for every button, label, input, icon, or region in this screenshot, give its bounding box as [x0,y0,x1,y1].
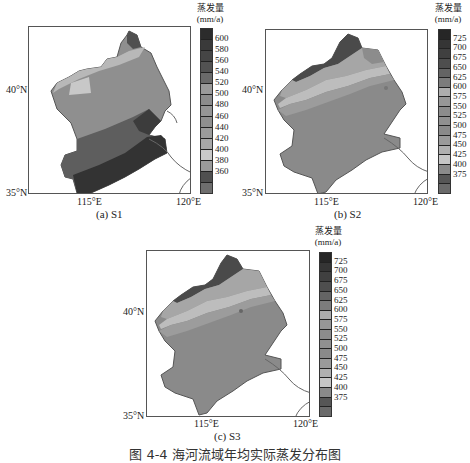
colorbar-tick-label: 450 [334,362,348,372]
colorbar-tick-label: 600 [215,33,229,43]
colorbar-ticks-s3: 7257006756506256005755505255004754504254… [334,252,351,417]
colorbar-segment [320,272,331,282]
colorbar-title-s2: 蒸发量 (mm/a) [428,3,468,25]
colorbar-tick-label: 400 [215,144,229,154]
colorbar-segment [201,161,212,172]
colorbar-segment [320,253,331,263]
colorbar-segment [320,340,331,350]
colorbar-tick-label: 600 [334,304,348,314]
colorbar-segment [439,126,450,136]
map-frame-s1 [28,26,191,194]
lat-label-35n: 35°N [123,410,144,421]
colorbar-segment [201,62,212,73]
colorbar-tick-label: 550 [453,101,467,111]
colorbar-tick-label: 575 [334,314,348,324]
colorbar-segment [201,172,212,183]
colorbar-segment [201,51,212,62]
colorbar-segment [201,73,212,84]
colorbar-tick-label: 525 [453,110,467,120]
panel-caption-s2: (b) S2 [334,208,361,220]
figure-caption: 图 4-4 海河流域年均实际蒸发分布图 [0,444,470,463]
lat-label-40n: 40°N [123,306,144,317]
colorbar-segment [320,407,331,416]
lat-label-40n: 40°N [6,84,27,95]
colorbar-tick-label: 675 [334,275,348,285]
colorbar-segment [320,292,331,302]
colorbar-segment [320,282,331,292]
colorbar-segment [439,175,450,185]
colorbar-segment [320,349,331,359]
colorbar-title-line2: (mm/a) [190,14,230,25]
colorbar-segment [439,40,450,50]
colorbar-tick-label: 625 [453,72,467,82]
colorbar-segment [201,40,212,51]
colorbar-tick-label: 475 [334,353,348,363]
colorbar-segment [320,320,331,330]
lat-label-40n: 40°N [242,84,263,95]
lon-label-120e: 120°E [293,418,318,429]
colorbar-tick-label: 500 [215,88,229,98]
colorbar-tick-label: 480 [215,99,229,109]
colorbar-segment [320,378,331,388]
colorbar-segment [320,398,331,408]
colorbar-s1 [200,28,213,194]
colorbar-tick-label: 460 [215,111,229,121]
colorbar-segment [201,183,212,193]
colorbar-tick-label: 580 [215,44,229,54]
colorbar-tick-label: 525 [334,333,348,343]
colorbar-segment [320,388,331,398]
colorbar-tick-label: 700 [334,265,348,275]
colorbar-tick-label: 575 [453,91,467,101]
colorbar-segment [439,155,450,165]
basin-map-s1 [29,27,191,194]
colorbar-tick-label: 420 [215,133,229,143]
lat-label-35n: 35°N [242,187,263,198]
colorbar-tick-label: 380 [215,155,229,165]
colorbar-tick-label: 500 [453,120,467,130]
basin-map-s3 [147,251,310,417]
colorbar-segment [201,139,212,150]
colorbar-s3 [319,252,332,417]
lon-label-120e: 120°E [176,196,201,207]
colorbar-segment [201,29,212,40]
colorbar-title-s3: 蒸发量 (mm/a) [308,226,348,248]
lon-label-115e: 115°E [77,196,102,207]
colorbar-tick-label: 360 [215,166,229,176]
lon-label-115e: 115°E [194,418,219,429]
colorbar-tick-label: 520 [215,77,229,87]
panel-caption-s1: (a) S1 [96,208,123,220]
colorbar-segment [439,146,450,156]
map-frame-s2 [265,29,428,194]
colorbar-tick-label: 725 [334,256,348,266]
colorbar-tick-label: 675 [453,52,467,62]
colorbar-ticks-s2: 7257006756506256005755505255004754504254… [453,29,470,194]
colorbar-tick-label: 375 [453,169,467,179]
colorbar-title-line2: (mm/a) [428,14,468,25]
colorbar-segment [439,88,450,98]
colorbar-title-line2: (mm/a) [308,237,348,248]
colorbar-segment [320,330,331,340]
colorbar-tick-label: 560 [215,55,229,65]
colorbar-title-s1: 蒸发量 (mm/a) [190,3,230,25]
colorbar-segment [320,369,331,379]
colorbar-tick-label: 375 [334,392,348,402]
map-frame-s3 [146,250,310,417]
colorbar-segment [439,59,450,69]
colorbar-segment [439,136,450,146]
colorbar-segment [439,97,450,107]
colorbar-tick-label: 540 [215,66,229,76]
lon-label-115e: 115°E [314,196,339,207]
colorbar-segment [439,69,450,79]
colorbar-tick-label: 425 [453,149,467,159]
colorbar-segment [439,78,450,88]
colorbar-segment [320,301,331,311]
colorbar-segment [439,107,450,117]
colorbar-tick-label: 400 [453,159,467,169]
lat-label-35n: 35°N [6,187,27,198]
colorbar-segment [201,117,212,128]
colorbar-ticks-s1: 600580560540520500480460440420400380360 [215,28,237,194]
colorbar-segment [201,128,212,139]
colorbar-segment [439,117,450,127]
colorbar-tick-label: 475 [453,130,467,140]
colorbar-tick-label: 625 [334,295,348,305]
